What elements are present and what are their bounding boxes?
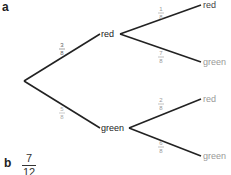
prob-label-green-red: 28 [158,97,164,111]
answer-denominator: 12 [23,167,35,175]
svg-text:8: 8 [60,50,64,56]
part-b-answer: 7 12 [22,153,36,175]
node-green: green [101,123,124,133]
part-b-label: b [4,156,11,170]
svg-text:8: 8 [60,114,64,120]
svg-text:2: 2 [159,97,163,103]
svg-text:3: 3 [60,42,64,48]
node-red-green: green [203,57,226,67]
prob-label-green: 58 [59,106,65,120]
probability-tree: 38red58green18red78green28red68green [0,0,231,175]
branch-root-green [24,81,100,128]
svg-text:8: 8 [159,105,163,111]
branch-green-red [129,99,201,128]
svg-text:5: 5 [60,106,64,112]
branch-green-green [129,128,201,156]
svg-text:1: 1 [159,6,163,12]
node-green-green: green [203,151,226,161]
answer-numerator: 7 [26,153,32,164]
prob-label-red: 38 [59,42,65,56]
svg-text:8: 8 [159,148,163,154]
svg-text:8: 8 [159,58,163,64]
node-red-red: red [203,0,216,10]
svg-text:7: 7 [159,50,163,56]
prob-label-red-green: 78 [158,50,164,64]
node-red: red [101,29,114,39]
node-green-red: red [203,94,216,104]
part-a-label: a [2,0,9,14]
